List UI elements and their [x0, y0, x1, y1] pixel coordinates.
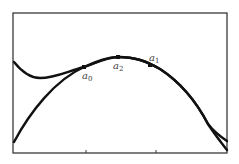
- plot-frame: [13, 13, 227, 153]
- point-marker-a2: [116, 55, 120, 59]
- point-label-a0: a0: [82, 70, 92, 83]
- parabolic-interpolation-diagram: a0a2a1: [0, 0, 239, 164]
- point-label-a2: a2: [113, 60, 123, 73]
- point-marker-a1: [148, 63, 152, 67]
- point-marker-a0: [82, 65, 86, 69]
